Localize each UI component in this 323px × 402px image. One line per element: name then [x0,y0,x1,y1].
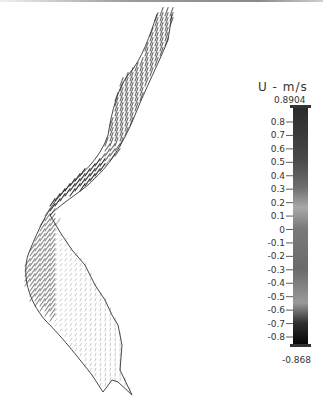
velocity-vector [70,279,72,282]
velocity-vector [85,273,86,276]
velocity-vector [65,304,67,306]
colorbar-tick-label: -0.2 [267,251,285,261]
velocity-vector [100,358,101,361]
velocity-vector [85,308,86,311]
colorbar-tick-label: -0.1 [267,238,285,248]
velocity-vector [95,338,96,341]
velocity-vector [80,278,81,281]
velocity-vector [80,293,81,296]
velocity-vector [65,244,67,246]
velocity-vector [60,279,62,281]
velocity-vector [80,308,81,311]
velocity-vector [75,258,77,261]
velocity-vector [85,318,86,321]
velocity-vector [70,334,72,337]
velocity-vector [70,299,72,302]
velocity-vector [85,313,86,316]
velocity-vector [85,353,86,356]
colorbar-tick-label: 0.5 [271,157,285,167]
velocity-vector [110,338,111,341]
colorbar-tick-label: 0.7 [271,130,285,140]
velocity-vector [70,289,72,292]
velocity-vector [55,319,57,321]
velocity-vector [105,343,106,346]
velocity-vector [80,273,81,276]
velocity-vector [100,308,101,311]
velocity-vector [70,309,72,312]
velocity-vector [70,259,72,262]
velocity-vector [105,348,106,351]
velocity-vector [90,353,91,356]
velocity-vector [85,358,86,361]
velocity-vector [110,378,111,381]
velocity-vector [60,309,62,311]
velocity-vector [75,263,77,266]
velocity-vector [105,363,106,366]
velocity-vector [75,268,77,271]
velocity-vector [95,343,96,346]
velocity-vector [75,348,77,351]
velocity-vector [90,288,91,291]
velocity-vector [60,264,62,266]
velocity-vector [110,373,111,376]
velocity-vector [85,363,86,366]
velocity-vector [100,303,101,306]
velocity-vector [90,328,91,331]
velocity-vector [80,338,81,341]
velocity-vector [95,348,96,351]
colorbar-max-label: 0.8904 [274,95,306,105]
velocity-vector [85,323,86,326]
velocity-vector [80,283,81,286]
velocity-vector [100,343,101,346]
velocity-vector [95,288,96,291]
velocity-vector [85,268,86,271]
velocity-vector [70,274,72,277]
velocity-vector [75,313,77,316]
velocity-vector [65,264,67,266]
velocity-vector [60,249,62,251]
velocity-vector [100,338,101,341]
velocity-vector [70,264,72,267]
velocity-vector [75,328,77,331]
velocity-vector [75,338,77,341]
velocity-vector [60,239,62,241]
velocity-vector [60,254,62,256]
velocity-vector [110,328,111,331]
velocity-vector [85,338,86,341]
velocity-vector [75,323,77,326]
colorbar-tick-label: -0.4 [267,278,285,288]
velocity-vector [70,324,72,327]
velocity-vector [95,318,96,321]
velocity-vector [95,328,96,331]
velocity-vector [105,368,106,371]
velocity-vector [65,309,67,311]
velocity-vector [90,293,91,296]
velocity-vector [105,303,106,306]
velocity-vector [110,313,111,316]
velocity-vector [80,288,81,291]
vector-arrows [25,8,173,392]
velocity-vector [85,343,86,346]
velocity-vector [65,274,67,276]
velocity-vector [105,338,106,341]
velocity-vector [90,323,91,326]
velocity-vector [85,328,86,331]
velocity-vector [65,314,67,316]
velocity-vector [80,348,81,351]
velocity-vector [95,373,96,376]
velocity-vector [95,293,96,296]
velocity-vector [85,293,86,296]
velocity-vector [75,273,77,276]
colorbar-tick-label: 0.1 [271,211,285,221]
velocity-vector [100,328,101,331]
velocity-vector [80,263,81,266]
velocity-vector [70,339,72,342]
colorbar-tick-label: -0.6 [267,305,285,315]
velocity-vector [75,303,77,306]
velocity-vector [90,313,91,316]
velocity-vector [60,289,62,291]
velocity-vector [60,304,62,306]
velocity-vector [80,303,81,306]
velocity-vector [100,348,101,351]
velocity-vector [80,313,81,316]
